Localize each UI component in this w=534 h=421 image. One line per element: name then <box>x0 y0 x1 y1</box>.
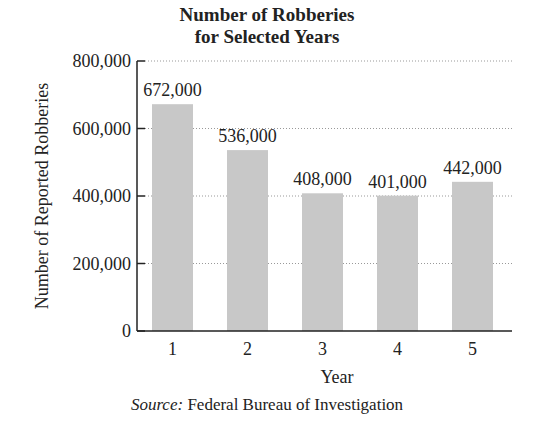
bar-value-label: 408,000 <box>293 169 352 189</box>
y-tick-label: 400,000 <box>73 186 132 206</box>
bar-value-label: 442,000 <box>443 158 502 178</box>
bar-value-label: 401,000 <box>368 172 427 192</box>
y-tick-label: 600,000 <box>73 119 132 139</box>
bar <box>227 150 268 331</box>
bar <box>152 104 193 331</box>
x-axis-label: Year <box>70 367 534 388</box>
source-note: Source: Federal Bureau of Investigation <box>0 395 534 415</box>
y-axis-label: Number of Reported Robberies <box>32 83 53 309</box>
bar-value-label: 536,000 <box>218 126 277 146</box>
x-tick-label: 4 <box>393 339 402 359</box>
y-tick-label: 200,000 <box>73 254 132 274</box>
y-tick-label: 0 <box>122 321 131 341</box>
bar <box>452 182 493 331</box>
bar-chart: 0200,000400,000600,000800,000672,0001536… <box>0 0 534 421</box>
source-text: Federal Bureau of Investigation <box>187 395 403 414</box>
x-tick-label: 1 <box>168 339 177 359</box>
x-tick-label: 2 <box>243 339 252 359</box>
source-label: Source: <box>131 395 183 414</box>
x-tick-label: 5 <box>468 339 477 359</box>
bar <box>377 196 418 331</box>
bar-value-label: 672,000 <box>143 80 202 100</box>
bar <box>302 193 343 331</box>
y-tick-label: 800,000 <box>73 51 132 71</box>
x-tick-label: 3 <box>318 339 327 359</box>
